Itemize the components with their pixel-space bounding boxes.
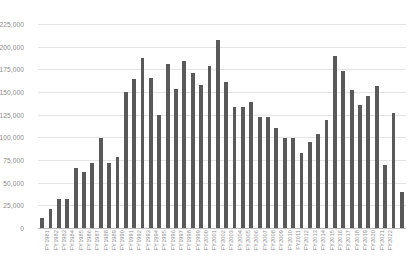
x-axis-tick-label: FY2011 — [295, 230, 301, 250]
bar — [300, 153, 304, 228]
bar — [99, 138, 103, 228]
x-axis-tick-label: FY1983 — [61, 230, 67, 250]
x-axis-tick-label: FY2001 — [211, 230, 217, 250]
x-axis-tick-label: FY1992 — [136, 230, 142, 250]
bars-layer — [38, 24, 406, 228]
bar — [274, 128, 278, 228]
x-axis-tick-label: FY2018 — [354, 230, 360, 250]
bar — [216, 40, 220, 228]
bar — [283, 138, 287, 228]
bar — [375, 86, 379, 228]
x-axis-tick-label: FY1986 — [86, 230, 92, 250]
bar — [124, 92, 128, 228]
x-axis-tick-label: FY2006 — [253, 230, 259, 250]
x-axis-tick-label: FY1981 — [44, 230, 50, 250]
bar — [400, 192, 404, 228]
y-axis-tick-label: 225,000 — [0, 21, 24, 28]
x-axis-tick-label: FY1991 — [128, 230, 134, 250]
x-axis-tick-label: FY1985 — [78, 230, 84, 250]
x-axis-tick-label: FY2012 — [303, 230, 309, 250]
y-axis-tick-label: 125,000 — [0, 111, 24, 118]
bar — [74, 168, 78, 228]
x-axis-tick-label: FY2014 — [320, 230, 326, 250]
x-axis-tick-label: FY1984 — [69, 230, 75, 250]
x-axis-tick-label: FY2002 — [220, 230, 226, 250]
bar — [132, 79, 136, 228]
bar — [166, 64, 170, 228]
bar — [116, 157, 120, 228]
bar — [224, 82, 228, 228]
x-axis-tick-label: FY1993 — [145, 230, 151, 250]
x-axis-tick-label: FY2007 — [262, 230, 268, 250]
axis-baseline — [38, 228, 406, 229]
x-axis-tick-label: FY1997 — [178, 230, 184, 250]
bar — [82, 172, 86, 228]
y-axis-tick-label: 175,000 — [0, 66, 24, 73]
x-axis-tick-label: FY2016 — [337, 230, 343, 250]
bar — [241, 107, 245, 228]
bar — [157, 115, 161, 228]
x-axis-tick-label: FY2015 — [329, 230, 335, 250]
bar — [325, 120, 329, 228]
bar — [40, 218, 44, 228]
x-axis-tick-label: FY1995 — [161, 230, 167, 250]
bar — [149, 78, 153, 228]
x-axis-tick-label: FY2009 — [278, 230, 284, 250]
bar — [341, 71, 345, 228]
bar — [65, 199, 69, 228]
x-axis-tick-label: FY2020 — [370, 230, 376, 250]
x-axis-tick-label: FY2021 — [379, 230, 385, 250]
x-axis-tick-label: FY2004 — [237, 230, 243, 250]
y-axis-tick-label: 25,000 — [3, 202, 24, 209]
x-axis-tick-label: FY2005 — [245, 230, 251, 250]
x-axis-tick-label: FY2003 — [228, 230, 234, 250]
bar — [258, 117, 262, 228]
x-axis-tick-label: FY1999 — [195, 230, 201, 250]
y-axis-tick-label: 150,000 — [0, 89, 24, 96]
x-axis-tick-label: FY1987 — [94, 230, 100, 250]
bar — [366, 96, 370, 228]
y-axis-tick-label: 100,000 — [0, 134, 24, 141]
x-axis-tick-label: FY2008 — [270, 230, 276, 250]
bar-chart: 225,000200,000175,000150,000125,000100,0… — [0, 0, 416, 280]
bar — [383, 165, 387, 228]
x-axis-tick-label: FY1990 — [119, 230, 125, 250]
x-axis-tick-label: FY1994 — [153, 230, 159, 250]
bar — [107, 163, 111, 228]
bar — [291, 138, 295, 228]
bar — [233, 107, 237, 228]
x-axis-tick-label: FY2022 — [387, 230, 393, 250]
bar — [316, 134, 320, 228]
x-axis-tick-label: FY1996 — [170, 230, 176, 250]
bar — [350, 90, 354, 228]
x-axis-tick-label: FY1988 — [103, 230, 109, 250]
bar — [182, 61, 186, 228]
x-axis-tick-label: FY2019 — [362, 230, 368, 250]
bar — [392, 113, 396, 228]
y-axis-tick-label: 0 — [20, 225, 24, 232]
bar — [57, 199, 61, 228]
y-axis-tick-label: 200,000 — [0, 43, 24, 50]
x-axis-tick-label: FY2013 — [312, 230, 318, 250]
x-axis-labels: FY1981FY1982FY1983FY1984FY1985FY1986FY19… — [38, 230, 406, 280]
bar — [308, 142, 312, 228]
bar — [174, 89, 178, 228]
bar — [333, 56, 337, 228]
x-axis-tick-label: FY1982 — [53, 230, 59, 250]
x-axis-tick-label: FY2010 — [287, 230, 293, 250]
bar — [141, 58, 145, 228]
x-axis-tick-label: FY2000 — [203, 230, 209, 250]
x-axis-tick-label: FY1998 — [186, 230, 192, 250]
bar — [199, 85, 203, 228]
y-axis-tick-label: 50,000 — [3, 179, 24, 186]
bar — [191, 73, 195, 228]
bar — [49, 209, 53, 228]
x-axis-tick-label: FY2017 — [345, 230, 351, 250]
bar — [358, 105, 362, 228]
bar — [249, 102, 253, 228]
x-axis-tick-label: FY1989 — [111, 230, 117, 250]
bar — [266, 117, 270, 228]
bar — [208, 66, 212, 228]
bar — [90, 163, 94, 228]
y-axis-tick-label: 75,000 — [3, 157, 24, 164]
